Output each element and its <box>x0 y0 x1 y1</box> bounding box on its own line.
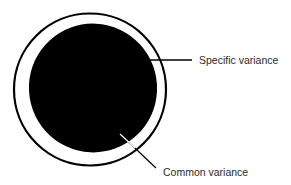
common-variance-region <box>11 6 175 171</box>
variance-diagram <box>0 0 291 185</box>
specific-variance-label: Specific variance <box>199 55 278 66</box>
common-variance-label: Common variance <box>163 167 248 178</box>
